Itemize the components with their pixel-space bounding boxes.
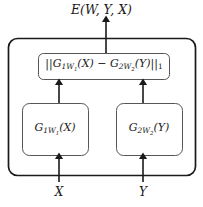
branch-left-base: G <box>34 121 43 134</box>
branch-right-sub-w: W <box>142 126 150 135</box>
branch-right-base: G <box>129 121 138 134</box>
input-y-label: Y <box>128 186 158 198</box>
distance-formula: ||G1W1(X) − G2W2(Y)||1 <box>38 58 170 72</box>
distance-right-term-base: G <box>110 57 119 70</box>
distance-left-sub-w: W <box>66 62 74 71</box>
norm-order: 1 <box>158 62 163 71</box>
distance-right-term-sub: 2W2 <box>119 62 135 71</box>
branch-right-sub: 2W2 <box>138 126 154 135</box>
branch-left-sub: 1W1 <box>43 126 59 135</box>
branch-left-formula: G1W1(X) <box>22 122 88 136</box>
distance-left-term-arg: (X) <box>77 57 93 70</box>
input-x-label: X <box>44 186 74 198</box>
branch-left-arg: (X) <box>59 121 75 134</box>
branch-right-arg: (Y) <box>153 121 169 134</box>
energy-output-label: E(W, Y, X) <box>0 4 203 17</box>
norm-open-bars: || <box>45 57 52 70</box>
diagram-canvas <box>0 0 203 207</box>
distance-right-term-arg: (Y) <box>135 57 151 70</box>
branch-left-sub-w: W <box>48 126 56 135</box>
norm-close-bars: || <box>151 57 158 70</box>
distance-left-term-sub: 1W1 <box>61 62 77 71</box>
branch-right-formula: G2W2(Y) <box>116 122 182 136</box>
distance-operator: − <box>97 57 106 70</box>
architecture-diagram: E(W, Y, X) ||G1W1(X) − G2W2(Y)||1 G1W1(X… <box>0 0 203 207</box>
